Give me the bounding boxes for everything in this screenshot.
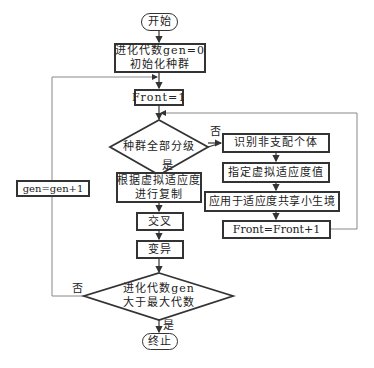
crossover-box: 交叉 [136,212,184,231]
front-init-label: Front=1 [132,91,186,105]
crossover-label: 交叉 [148,215,172,229]
selection-line1: 根据虚拟适应度 [117,174,201,188]
init-line2: 初始化种群 [130,58,190,72]
apply-sharing-label: 应用于适应度共享小生境 [209,195,336,209]
mutation-label: 变异 [148,243,172,257]
assign-fitness-box: 指定虚拟适应度值 [222,162,330,183]
ranked-yes-label: 是 [162,160,173,172]
end-label: 终止 [148,335,172,349]
selection-line2: 进行复制 [135,188,183,202]
gen-increment-label: gen=gen+1 [23,182,84,196]
gen-increment-box: gen=gen+1 [16,180,90,197]
ranked-decision-label: 种群全部分级 [112,140,206,154]
identify-nondominated-box: 识别非支配个体 [222,133,330,153]
front-increment-label: Front=Front+1 [233,223,320,237]
end-terminal: 终止 [142,333,178,350]
start-terminal: 开始 [141,13,178,31]
init-line1: 进化代数gen=0 [115,44,205,58]
gen-decision-line1: 进化代数gen [110,282,208,296]
apply-sharing-box: 应用于适应度共享小生境 [204,191,340,212]
ranked-no-label: 否 [210,126,221,138]
gen-decision-label: 进化代数gen 大于最大代数 [110,282,208,310]
gen-no-label: 否 [72,283,83,295]
assign-fitness-label: 指定虚拟适应度值 [228,166,324,180]
front-init-box: Front=1 [134,89,184,106]
init-box: 进化代数gen=0 初始化种群 [114,43,206,73]
start-label: 开始 [148,15,172,29]
front-increment-box: Front=Front+1 [222,220,331,239]
identify-nondominated-label: 识别非支配个体 [234,136,318,150]
gen-decision-line2: 大于最大代数 [110,296,208,310]
selection-box: 根据虚拟适应度 进行复制 [116,172,202,203]
gen-yes-label: 是 [163,320,174,332]
mutation-box: 变异 [136,240,184,259]
